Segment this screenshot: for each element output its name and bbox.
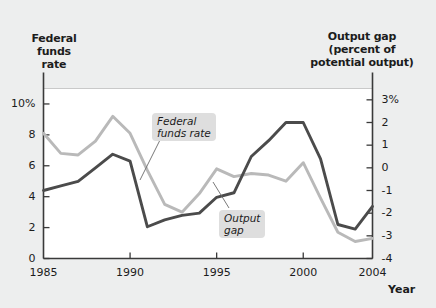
x-axis-tick-label: 1995 — [187, 267, 247, 278]
right-axis-tick-label: 1 — [382, 139, 389, 150]
left-axis-tick-label: 4 — [29, 191, 36, 202]
callout-output-gap-line2: gap — [224, 224, 260, 236]
chart-figure: Federal funds rate Output gap (percent o… — [0, 0, 436, 308]
callout-output-gap: Output gap — [219, 210, 265, 238]
x-axis-tick-label: 1985 — [14, 267, 74, 278]
plot-area — [0, 0, 436, 308]
x-axis-tick-label: 2004 — [343, 267, 403, 278]
left-axis-tick-label: 6 — [29, 160, 36, 171]
right-axis-tick-label: -2 — [382, 207, 393, 218]
callout-federal-funds-rate: Federal funds rate — [152, 113, 216, 141]
left-axis-tick-label: 2 — [29, 222, 36, 233]
right-axis-tick-label: 2 — [382, 117, 389, 128]
right-axis-tick-label: 0 — [382, 162, 389, 173]
left-axis-tick-label: 8 — [29, 129, 36, 140]
callout-federal-funds-line2: funds rate — [157, 127, 211, 139]
left-axis-tick-label: 0 — [29, 253, 36, 264]
right-axis-tick-label: -3 — [382, 230, 393, 241]
x-axis-tick-label: 2000 — [273, 267, 333, 278]
left-axis-tick-label: 10% — [11, 98, 35, 109]
right-axis-tick-label: -1 — [382, 185, 393, 196]
callout-output-gap-line1: Output — [224, 212, 260, 224]
right-axis-tick-label: 3% — [382, 94, 399, 105]
right-axis-tick-label: -4 — [382, 253, 393, 264]
x-axis-tick-label: 1990 — [100, 267, 160, 278]
callout-federal-funds-line1: Federal — [157, 115, 211, 127]
